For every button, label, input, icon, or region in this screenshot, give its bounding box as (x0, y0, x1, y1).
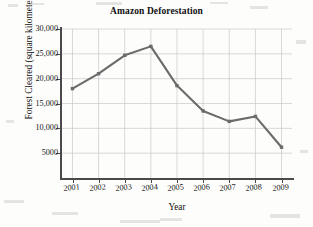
deforestation-line-series (62, 29, 292, 178)
y-tick-label: 30,000 (35, 24, 58, 33)
data-point-marker (280, 146, 283, 149)
data-point-marker (149, 45, 152, 48)
scan-artifact (96, 2, 122, 5)
x-tick-label: 2004 (141, 182, 158, 193)
y-tick-label: 25,000 (35, 49, 58, 58)
x-tick-label: 2005 (167, 182, 184, 193)
x-tick-label: 2002 (89, 182, 106, 193)
data-point-marker (175, 84, 178, 87)
data-point-marker (123, 54, 126, 57)
x-tick-label: 2009 (272, 182, 289, 193)
x-tick-label: 2003 (115, 182, 132, 193)
scan-artifact (296, 40, 306, 44)
y-tick-label: 15,000 (35, 99, 58, 108)
scan-artifact (8, 4, 18, 7)
y-tick-label: 5000 (42, 148, 58, 157)
data-point-marker (228, 120, 231, 123)
scan-artifact (6, 120, 14, 123)
scan-artifact (250, 6, 268, 9)
scan-artifact (270, 214, 300, 218)
chart-figure: Amazon Deforestation Forest Cleared (squ… (0, 0, 313, 227)
y-tick-label: 10,000 (35, 123, 58, 132)
x-tick-label: 2006 (193, 182, 210, 193)
data-point-marker (97, 72, 100, 75)
x-axis-title: Year (62, 202, 292, 212)
y-axis-title: Forest Cleared (square kilometers) (24, 0, 34, 130)
scan-artifact (30, 3, 44, 5)
plot-area (62, 29, 292, 178)
y-tick-label: 20,000 (35, 74, 58, 83)
scan-artifact (160, 218, 182, 221)
data-point-marker (201, 109, 204, 112)
scan-artifact (52, 212, 78, 215)
scan-artifact (120, 220, 160, 223)
x-tick-label: 2007 (219, 182, 236, 193)
scan-artifact (210, 2, 228, 4)
x-tick-label: 2008 (245, 182, 262, 193)
scan-artifact (4, 200, 24, 203)
x-tick-label: 2001 (63, 182, 80, 193)
data-point-marker (254, 115, 257, 118)
data-point-marker (71, 87, 74, 90)
series-polyline (72, 46, 281, 147)
scan-artifact (300, 150, 308, 153)
